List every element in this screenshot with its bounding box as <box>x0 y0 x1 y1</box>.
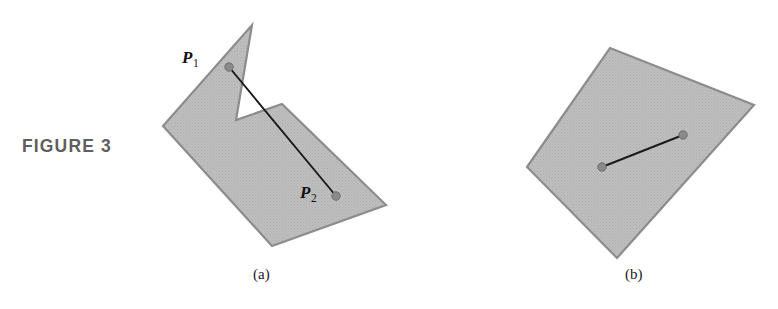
point-p1-marker <box>225 63 233 71</box>
point-label-p2-subscript: 2 <box>311 192 317 204</box>
point-b2-marker <box>679 131 687 139</box>
point-label-p1: P1 <box>182 48 199 69</box>
convex-polygon-shape <box>527 48 754 258</box>
panel-b-group <box>527 48 754 258</box>
panel-caption-b: (b) <box>625 266 643 283</box>
point-label-p2: P2 <box>300 183 317 204</box>
point-label-p2-letter: P <box>300 183 311 202</box>
panel-caption-a: (a) <box>253 266 270 283</box>
figure-diagram-canvas <box>0 0 778 309</box>
point-b1-marker <box>598 163 606 171</box>
point-label-p1-letter: P <box>182 48 193 67</box>
point-label-p1-subscript: 1 <box>193 57 199 69</box>
figure-root: FIGURE 3 P1 P2 (a) (b) <box>0 0 778 309</box>
figure-label: FIGURE 3 <box>22 136 112 157</box>
point-p2-marker <box>332 192 340 200</box>
